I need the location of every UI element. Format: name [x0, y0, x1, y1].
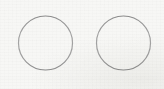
left-circle: [19, 16, 73, 70]
right-circle: [97, 16, 151, 70]
circles-svg: [0, 0, 164, 89]
drawing-canvas: [0, 0, 164, 89]
shape-layer: [0, 0, 164, 89]
